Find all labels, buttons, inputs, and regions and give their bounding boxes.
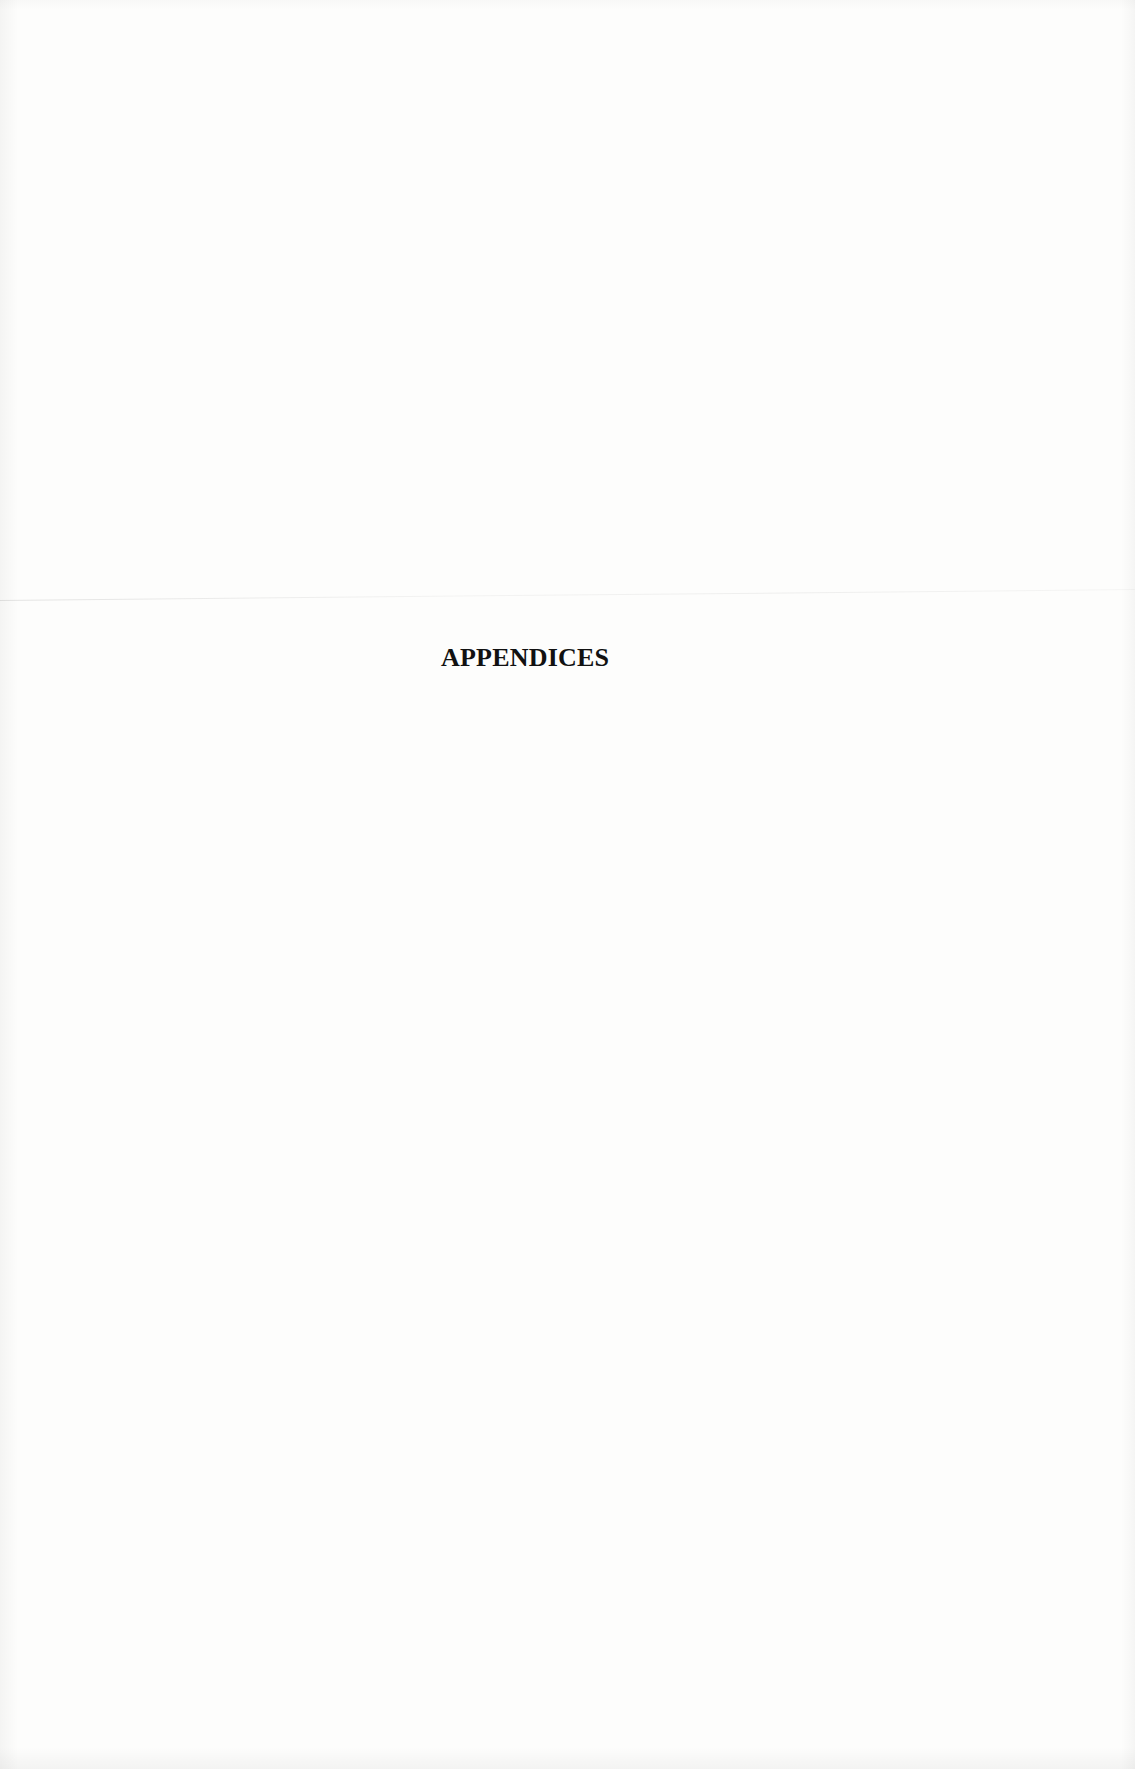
page-title: APPENDICES [441, 641, 641, 675]
scanned-page: APPENDICES [0, 0, 1135, 1769]
page-fold-line [0, 589, 1135, 601]
